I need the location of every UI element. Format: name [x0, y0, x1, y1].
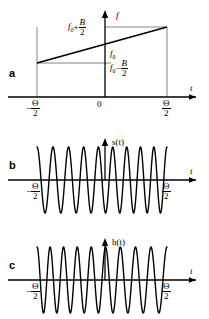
- y-tick-label-f0-minus-b-over-2: f0−B2: [110, 59, 128, 78]
- panel-c-x-tick-left: −Θ2: [26, 282, 40, 301]
- fraction-theta-over-2-right: Θ2: [162, 99, 171, 118]
- panel-a-x-tick-right: Θ2: [162, 99, 171, 118]
- panel-letter-a: a: [9, 68, 15, 79]
- panel-b-y-axis-arrow: [102, 138, 108, 146]
- panel-letter-c: c: [9, 260, 15, 271]
- panel-a-x-axis-arrow: [189, 94, 196, 100]
- panel-a-y-axis-label: f: [116, 11, 119, 20]
- frequency-ramp-line: [37, 27, 167, 63]
- panel-c-plot: [0, 218, 209, 319]
- panel-c-impulse-response: c h(t) t −Θ2 Θ2: [0, 218, 209, 319]
- panel-c-x-tick-right: Θ2: [162, 282, 171, 301]
- panel-a-y-axis-arrow: [102, 10, 108, 18]
- panel-c-y-axis-arrow: [102, 238, 108, 246]
- panel-b-x-tick-left: −Θ2: [26, 182, 40, 201]
- fraction-theta-over-2-b-right: Θ2: [162, 182, 171, 201]
- panel-c-y-axis-label: h(t): [112, 238, 125, 247]
- chirp-waveform-figure: a f t f0+B2 f0 f0−B2 −Θ2 0 Θ2: [0, 0, 209, 319]
- panel-a-x-axis-label: t: [190, 84, 193, 93]
- panel-b-x-axis-label: t: [190, 167, 193, 176]
- fraction-theta-over-2-b-left: Θ2: [31, 182, 40, 201]
- panel-b-y-axis-label: s(t): [112, 138, 124, 147]
- fraction-b-over-2-lower: B2: [121, 59, 129, 78]
- panel-a-x-tick-zero: 0: [97, 100, 102, 109]
- y-tick-label-f0-plus-b-over-2: f0+B2: [68, 18, 86, 37]
- panel-b-x-tick-right: Θ2: [162, 182, 171, 201]
- fraction-theta-over-2-c-left: Θ2: [31, 282, 40, 301]
- panel-b-x-axis-arrow: [189, 177, 196, 183]
- panel-b-plot: [0, 118, 209, 218]
- panel-a-frequency-ramp: a f t f0+B2 f0 f0−B2 −Θ2 0 Θ2: [0, 0, 209, 118]
- fraction-theta-over-2-c-right: Θ2: [162, 282, 171, 301]
- panel-c-x-axis-arrow: [189, 277, 196, 283]
- panel-a-x-tick-left: −Θ2: [26, 99, 40, 118]
- fraction-b-over-2: B2: [79, 18, 87, 37]
- fraction-theta-over-2-left: Θ2: [31, 99, 40, 118]
- panel-c-x-axis-label: t: [190, 267, 193, 276]
- panel-b-signal-waveform: b s(t) t −Θ2 Θ2: [0, 118, 209, 218]
- panel-letter-b: b: [9, 160, 16, 171]
